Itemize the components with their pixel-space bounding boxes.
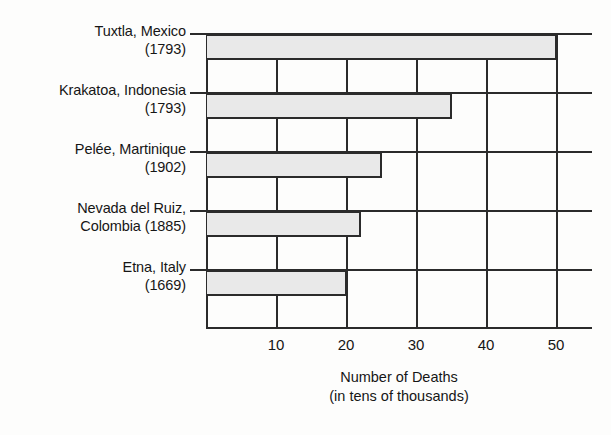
y-tick-nevada-del-ruiz <box>190 210 208 212</box>
bar-tuxtla <box>207 34 557 60</box>
x-axis-title-line-1: Number of Deaths <box>206 368 592 387</box>
category-label-tuxtla: Tuxtla, Mexico (1793) <box>0 23 186 58</box>
x-tick-label-20: 20 <box>326 336 366 353</box>
category-label-nevada-del-ruiz: Nevada del Ruiz, Colombia (1885) <box>0 200 186 235</box>
bar-fill <box>207 272 345 294</box>
bar-krakatoa <box>207 93 452 119</box>
bar-etna <box>207 270 347 296</box>
gridline-x-30 <box>416 33 418 329</box>
x-axis-title: Number of Deaths (in tens of thousands) <box>206 368 592 406</box>
category-label-etna: Etna, Italy (1669) <box>0 259 186 294</box>
category-label-krakatoa: Krakatoa, Indonesia (1793) <box>0 82 186 117</box>
x-tick-label-50: 50 <box>536 336 576 353</box>
x-tick-label-40: 40 <box>466 336 506 353</box>
y-tick-etna <box>190 269 208 271</box>
bar-fill <box>207 154 380 176</box>
bar-fill <box>207 213 359 235</box>
y-tick-krakatoa <box>190 92 208 94</box>
bar-chart-figure: Tuxtla, Mexico (1793) Krakatoa, Indonesi… <box>0 0 611 435</box>
bar-fill <box>207 36 555 58</box>
x-tick-label-30: 30 <box>396 336 436 353</box>
gridline-x-50 <box>556 33 558 329</box>
bar-nevada-del-ruiz <box>207 211 361 237</box>
gridline-x-40 <box>486 33 488 329</box>
category-label-pelee: Pelée, Martinique (1902) <box>0 141 186 176</box>
x-axis-title-line-2: (in tens of thousands) <box>206 387 592 406</box>
y-tick-tuxtla <box>190 33 208 35</box>
x-axis-baseline <box>206 327 592 329</box>
bar-fill <box>207 95 450 117</box>
y-tick-pelee <box>190 151 208 153</box>
category-axis-labels: Tuxtla, Mexico (1793) Krakatoa, Indonesi… <box>0 25 186 327</box>
x-tick-label-10: 10 <box>256 336 296 353</box>
bar-pelee <box>207 152 382 178</box>
